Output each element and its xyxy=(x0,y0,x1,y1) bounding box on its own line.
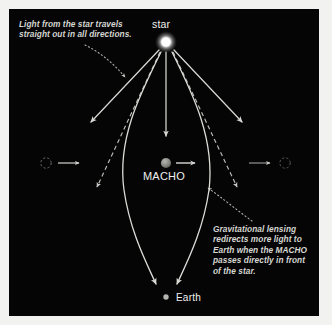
earth-object xyxy=(163,294,168,299)
annotation-lensing-text: Gravitational lensing redirects more lig… xyxy=(213,224,325,276)
macho-ghost-right xyxy=(249,158,290,168)
dashed-ray-right-line xyxy=(173,52,237,187)
leader-light-annotation xyxy=(85,45,125,77)
ray-far-left-line xyxy=(91,50,159,122)
lensed-ray-right-path xyxy=(172,52,210,284)
lensed-ray-left-path xyxy=(123,52,161,284)
star-label: star xyxy=(152,18,170,30)
macho-ghost-left xyxy=(41,158,79,168)
macho-label: MACHO xyxy=(143,170,185,182)
annotation-leader-lines xyxy=(85,45,252,221)
ray-far-right-line xyxy=(174,50,242,122)
earth-label: Earth xyxy=(176,292,201,303)
leader-lensing-annotation xyxy=(208,188,252,221)
diagram-canvas xyxy=(0,0,332,325)
lensing-figure: Light from the star travels straight out… xyxy=(0,0,332,325)
macho-object xyxy=(161,158,195,168)
straight-light-rays xyxy=(91,50,242,136)
